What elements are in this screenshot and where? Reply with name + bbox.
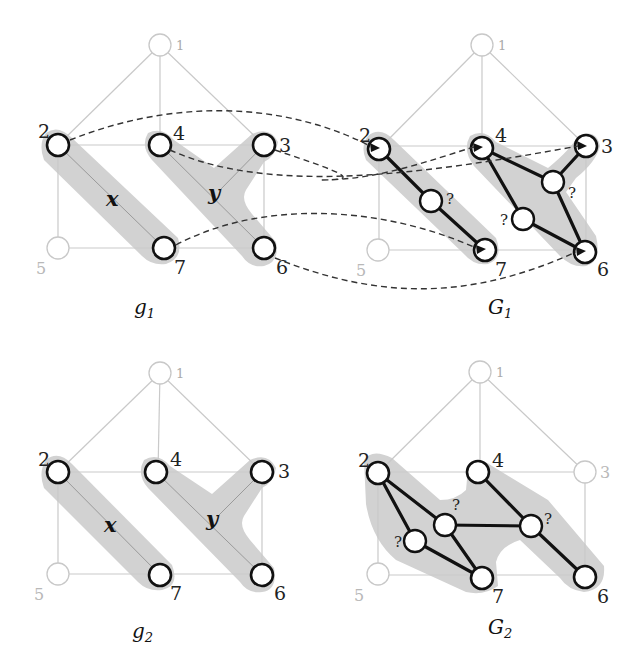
node-label-7: 7 bbox=[495, 258, 507, 280]
panel-G1: 1 2 4 3 5 7 6 ? ? ? G1 bbox=[356, 34, 613, 321]
unknown-label: ? bbox=[452, 496, 460, 514]
node-4 bbox=[467, 461, 489, 483]
unknown-label: ? bbox=[394, 533, 402, 551]
node-5 bbox=[367, 563, 389, 585]
node-2 bbox=[47, 134, 69, 156]
node-label-2: 2 bbox=[38, 120, 50, 142]
unknown-label: ? bbox=[500, 211, 508, 229]
set-label-x: x bbox=[105, 186, 119, 211]
node-label-4: 4 bbox=[492, 449, 504, 471]
node-label-1: 1 bbox=[176, 38, 184, 53]
node-5 bbox=[367, 239, 389, 261]
node-label-2: 2 bbox=[38, 448, 50, 470]
node-label-1: 1 bbox=[498, 38, 506, 53]
node-5 bbox=[47, 237, 69, 259]
mapping-6-to-7 bbox=[275, 252, 576, 289]
unknown-node bbox=[542, 171, 564, 193]
node-7 bbox=[471, 567, 493, 589]
caption-G2: G2 bbox=[488, 615, 512, 641]
node-3 bbox=[574, 461, 596, 483]
node-4 bbox=[149, 134, 171, 156]
graph-diagram: 1 2 4 3 5 7 6 x y g1 bbox=[0, 0, 644, 672]
node-2 bbox=[47, 461, 69, 483]
node-label-1: 1 bbox=[176, 366, 184, 381]
node-label-4: 4 bbox=[495, 124, 507, 146]
node-label-6: 6 bbox=[597, 585, 609, 607]
node-label-6: 6 bbox=[597, 258, 609, 280]
node-label-3: 3 bbox=[278, 460, 290, 482]
node-7 bbox=[153, 237, 175, 259]
panel-G2: 1 2 4 3 5 7 6 ? ? ? G2 bbox=[354, 361, 610, 641]
node-label-5: 5 bbox=[356, 261, 366, 280]
node-1 bbox=[149, 34, 171, 56]
node-label-5: 5 bbox=[36, 259, 46, 278]
caption-g2: g2 bbox=[132, 619, 153, 645]
unknown-label: ? bbox=[544, 510, 552, 528]
set-label-x: x bbox=[103, 512, 117, 537]
node-label-5: 5 bbox=[34, 585, 44, 604]
node-label-3: 3 bbox=[601, 135, 613, 157]
unknown-node bbox=[404, 530, 426, 552]
node-1 bbox=[471, 34, 493, 56]
node-label-3: 3 bbox=[600, 463, 610, 482]
node-1 bbox=[149, 362, 171, 384]
unknown-node bbox=[520, 515, 542, 537]
node-3 bbox=[251, 461, 273, 483]
mapping-2-to-2 bbox=[70, 111, 370, 146]
set-label-y: y bbox=[205, 506, 220, 531]
node-7 bbox=[149, 564, 171, 586]
node-label-4: 4 bbox=[173, 122, 185, 144]
node-6 bbox=[253, 237, 275, 259]
node-2 bbox=[367, 462, 389, 484]
unknown-label: ? bbox=[446, 190, 454, 208]
unknown-node bbox=[434, 514, 456, 536]
node-5 bbox=[47, 563, 69, 585]
node-label-4: 4 bbox=[170, 448, 182, 470]
unknown-node bbox=[512, 208, 534, 230]
node-label-2: 2 bbox=[358, 449, 370, 471]
node-label-6: 6 bbox=[274, 582, 286, 604]
node-6 bbox=[251, 564, 273, 586]
node-label-7: 7 bbox=[492, 585, 504, 607]
panel-g2: 1 2 4 3 5 7 6 x y g2 bbox=[34, 362, 290, 645]
node-1 bbox=[469, 361, 491, 383]
node-label-1: 1 bbox=[496, 365, 504, 380]
node-6 bbox=[574, 566, 596, 588]
node-label-7: 7 bbox=[174, 256, 186, 278]
node-label-7: 7 bbox=[170, 582, 182, 604]
node-label-2: 2 bbox=[359, 124, 371, 146]
node-3 bbox=[253, 134, 275, 156]
unknown-node bbox=[420, 190, 442, 212]
unknown-label: ? bbox=[568, 184, 576, 202]
set-label-y: y bbox=[207, 180, 222, 205]
caption-G1: G1 bbox=[488, 295, 512, 321]
node-4 bbox=[145, 461, 167, 483]
node-label-5: 5 bbox=[354, 586, 364, 605]
caption-g1: g1 bbox=[134, 295, 155, 321]
panel-g1: 1 2 4 3 5 7 6 x y g1 bbox=[36, 34, 291, 321]
